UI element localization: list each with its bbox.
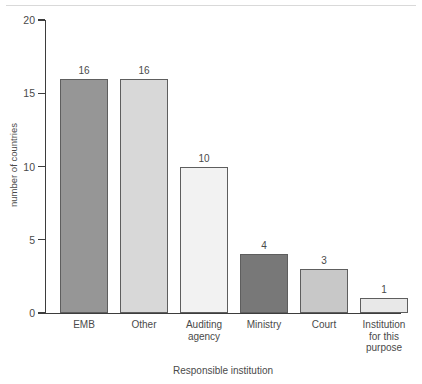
bar-group[interactable]: 16: [120, 20, 168, 313]
bar-group[interactable]: 3: [300, 20, 348, 313]
bar-group[interactable]: 1: [360, 20, 408, 313]
x-axis-category-label-line: Institution: [349, 319, 419, 331]
y-axis-tick: [38, 93, 45, 94]
y-axis-tick-label: 0: [5, 308, 35, 319]
x-axis-category-label: Institutionfor thispurpose: [349, 319, 419, 354]
plot-area: 161610431: [46, 20, 401, 313]
bar[interactable]: [360, 298, 408, 313]
bar-value-label: 3: [294, 255, 354, 266]
top-divider-rule: [6, 5, 416, 6]
bar-group[interactable]: 16: [60, 20, 108, 313]
y-axis-tick: [38, 19, 45, 20]
bar-value-label: 10: [174, 153, 234, 164]
y-axis-tick: [38, 312, 45, 313]
bar[interactable]: [60, 79, 108, 313]
bar-value-label: 4: [234, 240, 294, 251]
bar[interactable]: [240, 254, 288, 313]
bar-group[interactable]: 10: [180, 20, 228, 313]
y-axis-title: number of countries: [9, 85, 19, 245]
bar-value-label: 16: [114, 65, 174, 76]
bar-value-label: 1: [354, 284, 414, 295]
bar[interactable]: [300, 269, 348, 313]
x-axis-category-label-line: agency: [169, 331, 239, 343]
y-axis-tick: [38, 166, 45, 167]
y-axis-tick-label: 20: [5, 15, 35, 26]
bar[interactable]: [120, 79, 168, 313]
bar[interactable]: [180, 167, 228, 314]
x-axis-category-label-line: for this: [349, 331, 419, 343]
x-axis-title: Responsible institution: [45, 365, 401, 376]
x-axis-category-label-line: purpose: [349, 342, 419, 354]
bar-group[interactable]: 4: [240, 20, 288, 313]
y-axis-tick: [38, 239, 45, 240]
bar-value-label: 16: [54, 65, 114, 76]
bar-chart: 05101520 number of countries 161610431 E…: [0, 0, 422, 384]
